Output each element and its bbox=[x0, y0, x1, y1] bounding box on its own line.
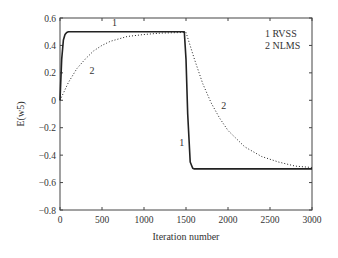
curve-label: 2 bbox=[89, 65, 94, 76]
x-tick-label: 2000 bbox=[219, 215, 238, 225]
x-tick-label: 1000 bbox=[135, 215, 154, 225]
x-tick-label: 0 bbox=[58, 215, 63, 225]
curve-label: 2 bbox=[221, 100, 226, 111]
x-axis-label: Iteration number bbox=[153, 231, 221, 242]
x-tick-label: 1500 bbox=[177, 215, 196, 225]
y-tick-label: 0.6 bbox=[44, 14, 56, 24]
curve-label: 1 bbox=[179, 137, 184, 148]
y-tick-label: 0 bbox=[51, 96, 56, 106]
y-tick-label: 0.2 bbox=[44, 68, 56, 78]
legend-entry-nlms: 2 NLMS bbox=[265, 40, 300, 51]
plot-series bbox=[60, 32, 312, 169]
chart-canvas: 0500100015002000250030000.60.40.20−0.2−0… bbox=[0, 0, 338, 258]
x-tick-label: 2500 bbox=[261, 215, 280, 225]
y-tick-label: −0.4 bbox=[39, 151, 56, 161]
series-rvss bbox=[60, 32, 312, 169]
y-tick-label: −0.8 bbox=[39, 206, 56, 216]
y-tick-label: −0.2 bbox=[39, 123, 56, 133]
y-tick-label: 0.4 bbox=[44, 41, 56, 51]
x-tick-label: 3000 bbox=[303, 215, 322, 225]
legend-entry-rvss: 1 RVSS bbox=[265, 28, 297, 39]
curve-label: 1 bbox=[112, 17, 117, 28]
plot-annotations: 1212 bbox=[89, 17, 226, 147]
y-axis-label: E(w5) bbox=[15, 102, 27, 127]
x-tick-label: 500 bbox=[95, 215, 110, 225]
y-tick-label: −0.6 bbox=[39, 178, 56, 188]
legend: 1 RVSS2 NLMS bbox=[265, 28, 300, 51]
